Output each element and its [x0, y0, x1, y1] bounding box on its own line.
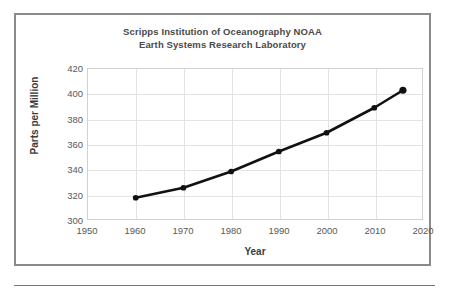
figure-frame: Scripps Institution of Oceanography NOAA… [14, 13, 431, 266]
x-tick-2000: 2000 [307, 225, 347, 236]
y-tick-420: 420 [49, 63, 83, 74]
y-tick-300: 300 [49, 215, 83, 226]
data-point-1960 [133, 195, 139, 201]
chart-title: Scripps Institution of Oceanography NOAA… [16, 25, 429, 51]
x-tick-1950: 1950 [67, 225, 107, 236]
data-point-1990 [276, 149, 282, 155]
chart-title-line-1: Scripps Institution of Oceanography NOAA [16, 25, 429, 38]
x-tick-1960: 1960 [115, 225, 155, 236]
data-point-2016 [399, 87, 406, 94]
data-series-line [88, 69, 422, 219]
y-tick-380: 380 [49, 113, 83, 124]
y-tick-320: 320 [49, 189, 83, 200]
chart-title-line-2: Earth Systems Research Laboratory [16, 38, 429, 51]
x-tick-1970: 1970 [163, 225, 203, 236]
data-point-1980 [228, 169, 234, 175]
data-point-1970 [181, 185, 187, 191]
x-tick-2020: 2020 [403, 225, 443, 236]
x-tick-labels: 19501960197019801990200020102020 [87, 225, 423, 239]
x-tick-1990: 1990 [259, 225, 299, 236]
x-axis-label: Year [87, 246, 423, 257]
data-point-2000 [324, 130, 330, 136]
data-point-2010 [371, 105, 377, 111]
y-tick-labels: 300320340360380400420 [47, 68, 83, 220]
bottom-divider [14, 285, 435, 286]
plot-area [87, 68, 423, 220]
series-line-0 [136, 90, 403, 198]
y-axis-label: Parts per Million [29, 61, 40, 171]
x-tick-1980: 1980 [211, 225, 251, 236]
y-tick-340: 340 [49, 164, 83, 175]
y-tick-360: 360 [49, 139, 83, 150]
x-tick-2010: 2010 [355, 225, 395, 236]
y-tick-400: 400 [49, 88, 83, 99]
